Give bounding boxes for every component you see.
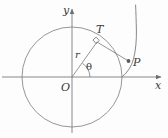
- tangent-segment: [97, 42, 129, 61]
- x-axis-label: x: [155, 80, 161, 91]
- involute-circle-diagram: y x O T P r θ: [0, 0, 168, 138]
- tangent-point-label: T: [96, 24, 103, 35]
- y-axis-label: y: [63, 5, 69, 16]
- diagram-canvas: [0, 0, 168, 138]
- theta-label: θ: [86, 62, 92, 72]
- point-p-label: P: [133, 57, 140, 68]
- radius-label: r: [75, 50, 80, 60]
- origin-label: O: [61, 82, 70, 93]
- point-p-marker: [127, 59, 131, 63]
